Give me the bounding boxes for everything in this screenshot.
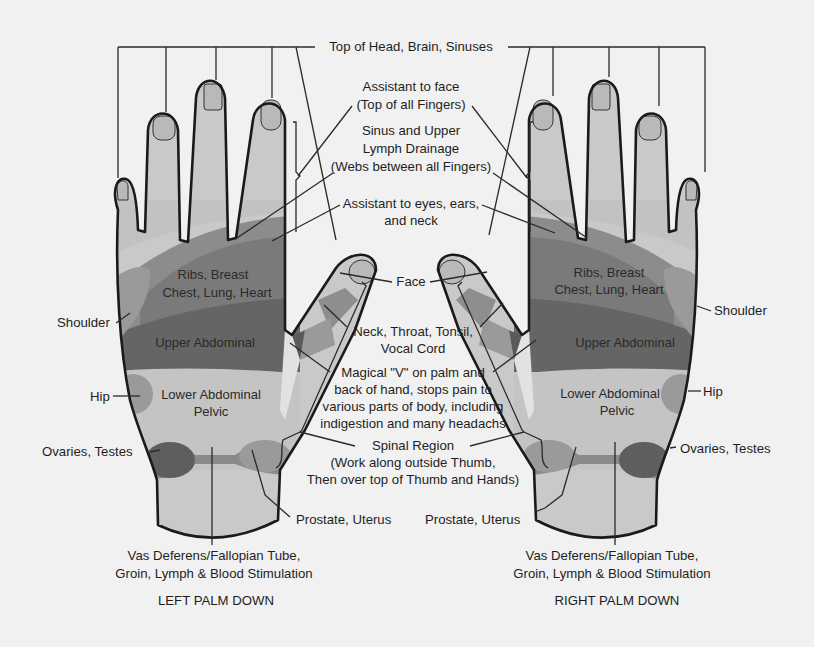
sinus-label-3: (Webs between all Fingers) — [331, 159, 491, 174]
left-ovaries-label: Ovaries, Testes — [42, 444, 133, 459]
left-shoulder-label: Shoulder — [57, 315, 110, 330]
neck-label-1: Neck, Throat, Tonsil, — [353, 324, 473, 339]
right-ribs-label-1: Ribs, Breast — [574, 265, 645, 280]
magical-v-label-1: Magical "V" on palm and — [341, 365, 485, 380]
top-of-head-label: Top of Head, Brain, Sinuses — [329, 39, 493, 54]
neck-label-2: Vocal Cord — [381, 341, 446, 356]
spinal-label-3: Then over top of Thumb and Hands) — [307, 472, 519, 487]
right-vas-label-1: Vas Deferens/Fallopian Tube, — [526, 548, 699, 563]
assistant-face-label-1: Assistant to face — [363, 79, 460, 94]
right-upper-abdominal-label: Upper Abdominal — [575, 335, 675, 350]
left-ribs-label-1: Ribs, Breast — [178, 267, 249, 282]
magical-v-label-4: indigestion and many headachs — [320, 416, 506, 431]
left-vas-label-2: Groin, Lymph & Blood Stimulation — [115, 566, 312, 581]
sinus-label-2: Lymph Drainage — [363, 141, 459, 156]
right-hip-label: Hip — [703, 384, 723, 399]
right-shoulder-label: Shoulder — [714, 303, 767, 318]
left-hip-label: Hip — [90, 389, 110, 404]
left-ribs-label-2: Chest, Lung, Heart — [162, 285, 272, 300]
hand-reflexology-diagram: Ribs, Breast Chest, Lung, Heart Upper Ab… — [0, 0, 814, 647]
right-lower-abdominal-label-1: Lower Abdominal — [560, 386, 660, 401]
left-caption: LEFT PALM DOWN — [158, 593, 274, 608]
left-pelvic-label: Pelvic — [194, 404, 229, 419]
right-vas-label-2: Groin, Lymph & Blood Stimulation — [513, 566, 710, 581]
left-upper-abdominal-label: Upper Abdominal — [155, 335, 255, 350]
right-caption: RIGHT PALM DOWN — [555, 593, 680, 608]
assistant-face-label-2: (Top of all Fingers) — [356, 97, 465, 112]
face-label: Face — [396, 274, 425, 289]
assistant-eyes-label-2: and neck — [384, 213, 438, 228]
right-ribs-label-2: Chest, Lung, Heart — [554, 282, 664, 297]
right-prostate-label: Prostate, Uterus — [425, 512, 521, 527]
left-prostate-label: Prostate, Uterus — [296, 512, 392, 527]
spinal-label-2: (Work along outside Thumb, — [330, 455, 495, 470]
right-pelvic-label: Pelvic — [600, 403, 635, 418]
left-hand: Ribs, Breast Chest, Lung, Heart Upper Ab… — [42, 60, 400, 608]
right-ovaries-label: Ovaries, Testes — [680, 441, 771, 456]
spinal-label-1: Spinal Region — [372, 438, 454, 453]
magical-v-label-2: back of hand, stops pain to — [334, 382, 492, 397]
sinus-label-1: Sinus and Upper — [362, 123, 461, 138]
assistant-eyes-label-1: Assistant to eyes, ears, — [343, 196, 479, 211]
magical-v-label-3: various parts of body, including — [323, 399, 504, 414]
left-lower-abdominal-label-1: Lower Abdominal — [161, 387, 261, 402]
left-vas-label-1: Vas Deferens/Fallopian Tube, — [128, 548, 301, 563]
